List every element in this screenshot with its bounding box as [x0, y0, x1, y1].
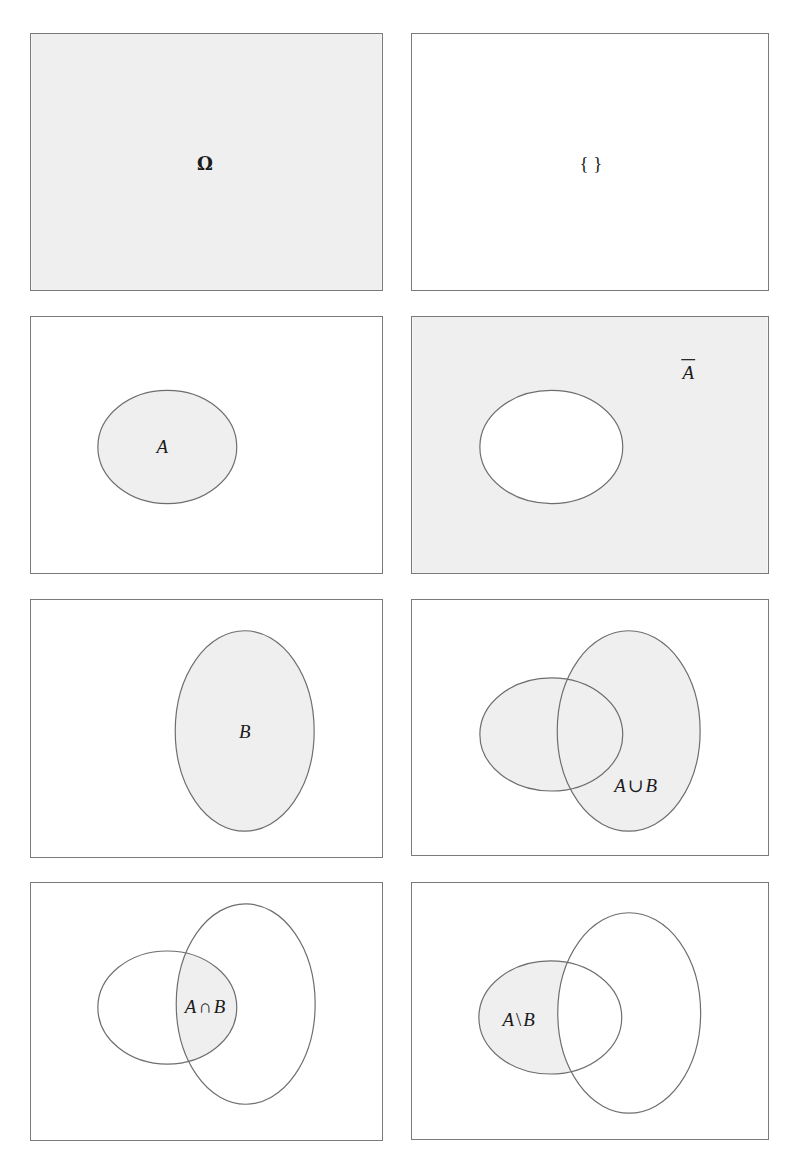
set-b-label: B — [239, 721, 251, 742]
panel-difference: A\B — [411, 882, 769, 1140]
panel-set-a: A — [30, 316, 383, 574]
difference-label: A\B — [500, 1009, 535, 1030]
universal-set-diagram: Ω — [31, 34, 382, 290]
empty-set-diagram: { } — [412, 34, 768, 290]
union-label: A∪B — [612, 775, 657, 796]
panel-union: A∪B — [411, 599, 769, 856]
panel-universal-set: Ω — [30, 33, 383, 291]
set-b-diagram: B — [31, 600, 382, 857]
intersection-label: A∩B — [183, 996, 226, 1017]
ellipse-a — [480, 390, 623, 503]
shaded-ellipse-b — [557, 631, 700, 831]
panel-complement-a: A — [411, 316, 769, 574]
panel-intersection: A∩B — [30, 882, 383, 1141]
shaded-intersection-region — [176, 904, 315, 1104]
intersection-diagram: A∩B — [31, 883, 382, 1140]
set-a-label: A — [155, 436, 169, 457]
set-a-diagram: A — [31, 317, 382, 573]
empty-set-label: { } — [580, 153, 603, 174]
shaded-difference-region — [479, 961, 622, 1074]
difference-diagram: A\B — [412, 883, 768, 1139]
complement-a-diagram: A — [412, 317, 768, 573]
omega-label: Ω — [197, 153, 213, 174]
clipped-page-text-fragment — [0, 0, 799, 4]
panel-set-b: B — [30, 599, 383, 858]
panel-empty-set: { } — [411, 33, 769, 291]
complement-a-label: A — [680, 362, 694, 383]
union-diagram: A∪B — [412, 600, 768, 855]
